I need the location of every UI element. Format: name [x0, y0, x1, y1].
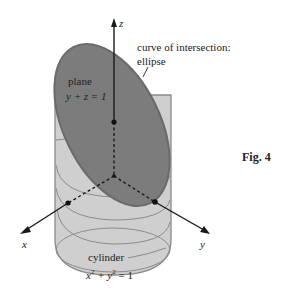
annotation-curve-line1: curve of intersection: [137, 41, 230, 53]
z-axis-arrowhead [111, 18, 117, 27]
annotation-pointer [143, 67, 148, 77]
annotation-curve-line2: ellipse [137, 55, 166, 67]
plane-equation: y + z = 1 [66, 90, 107, 102]
plane-label: plane [68, 75, 92, 87]
x-intercept-dot [65, 200, 70, 205]
cylinder-label: cylinder [88, 251, 124, 263]
x-axis-label: x [22, 238, 27, 250]
cylinder-eq-y: + y [94, 269, 112, 281]
y-axis-arrowhead [200, 226, 210, 234]
z-axis-label: z [119, 17, 123, 29]
origin-dot [112, 174, 116, 178]
z-intercept-dot [111, 119, 116, 124]
cylinder-eq-rest: = 1 [116, 269, 133, 281]
cylinder-equation: x2 + y2 = 1 [86, 266, 133, 281]
y-intercept-dot [152, 199, 158, 205]
y-axis-label: y [200, 238, 205, 250]
figure-caption: Fig. 4 [242, 151, 271, 163]
figure-diagram: z x y curve of intersection: ellipse pla… [0, 0, 283, 302]
